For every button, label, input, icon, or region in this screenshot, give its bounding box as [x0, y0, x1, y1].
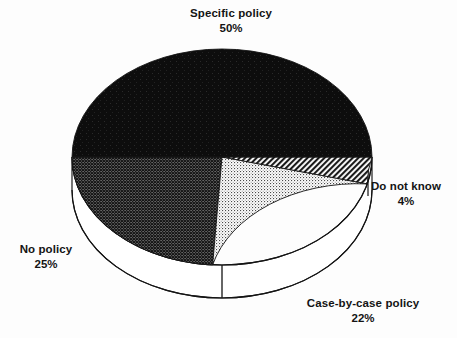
pie-slice-specific-policy[interactable] [72, 49, 372, 157]
label-case-by-case-policy-text: Case-by-case policy [307, 297, 420, 309]
label-no-policy: No policy 25% [20, 243, 73, 270]
label-do-not-know-value: 4% [398, 195, 415, 207]
pie-chart-figure: Specific policy 50% Do not know 4% No po… [0, 0, 457, 338]
label-specific-policy: Specific policy 50% [190, 7, 273, 34]
label-case-by-case-policy-value: 22% [351, 312, 374, 324]
pie-chart-canvas: Specific policy 50% Do not know 4% No po… [0, 0, 457, 338]
label-no-policy-value: 25% [34, 258, 57, 270]
label-do-not-know-text: Do not know [371, 180, 441, 192]
label-no-policy-text: No policy [20, 243, 73, 255]
pie-slices [72, 49, 372, 265]
label-specific-policy-text: Specific policy [190, 7, 273, 19]
label-do-not-know: Do not know 4% [371, 180, 441, 207]
label-case-by-case-policy: Case-by-case policy 22% [307, 297, 420, 324]
label-specific-policy-value: 50% [219, 22, 242, 34]
pie-slice-no-policy[interactable] [72, 157, 222, 265]
